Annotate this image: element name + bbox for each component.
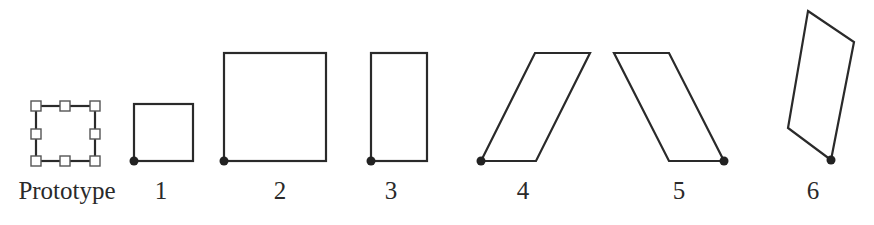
handle-middle-right xyxy=(90,129,100,139)
shape-4-parallelogram xyxy=(481,53,590,161)
prototype-shape xyxy=(31,101,100,166)
label-3: 3 xyxy=(385,178,398,203)
label-4: 4 xyxy=(517,178,530,203)
handle-bottom-center xyxy=(60,156,70,166)
shape-3-stretched-rectangle xyxy=(371,53,427,161)
anchor-dot-3 xyxy=(367,157,376,166)
handle-middle-left xyxy=(31,129,41,139)
transformation-figure: Prototype 1 2 3 4 5 6 xyxy=(0,0,874,225)
anchor-dot-6 xyxy=(827,156,836,165)
shape-6-rotated-parallelogram xyxy=(788,11,854,160)
handle-top-center xyxy=(60,101,70,111)
shape-2-scaled-square xyxy=(224,53,326,161)
shape-5-parallelogram xyxy=(614,53,724,161)
label-6: 6 xyxy=(807,178,820,203)
handle-top-left xyxy=(31,101,41,111)
selection-handles xyxy=(31,101,100,166)
handle-bottom-left xyxy=(31,156,41,166)
label-5: 5 xyxy=(673,178,686,203)
shapes-canvas xyxy=(0,0,874,225)
label-prototype: Prototype xyxy=(18,178,115,203)
anchor-dot-4 xyxy=(477,157,486,166)
label-1: 1 xyxy=(155,178,168,203)
anchor-dot-5 xyxy=(720,157,729,166)
anchor-dot-2 xyxy=(220,157,229,166)
shape-1-square xyxy=(134,104,193,161)
label-2: 2 xyxy=(274,178,287,203)
handle-bottom-right xyxy=(90,156,100,166)
anchor-dot-1 xyxy=(130,157,139,166)
handle-top-right xyxy=(90,101,100,111)
